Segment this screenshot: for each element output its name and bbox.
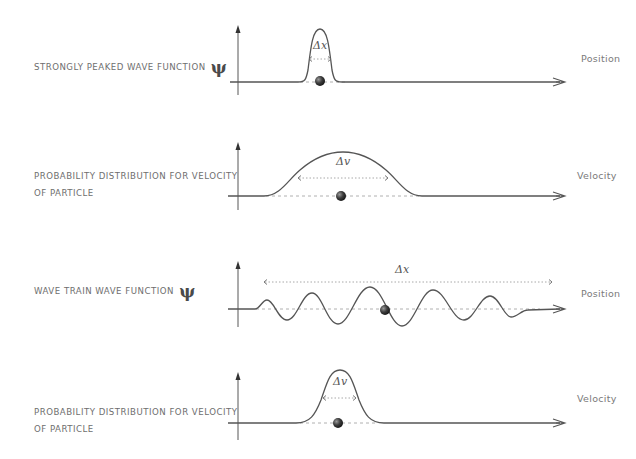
panel-peaked-wave-function: Δx xyxy=(230,25,565,95)
delta-v-label: Δv xyxy=(332,375,348,388)
particle-icon xyxy=(336,191,346,201)
y-axis-arrow-icon xyxy=(236,25,241,33)
velocity-distribution-curve xyxy=(228,152,560,196)
panel-velocity-distribution-narrow: Δv xyxy=(228,370,565,440)
delta-v-label: Δv xyxy=(335,155,351,168)
wave-function-curve xyxy=(230,29,560,82)
particle-icon xyxy=(333,418,343,428)
y-axis-arrow-icon xyxy=(236,372,241,380)
wave-train-curve xyxy=(228,287,560,326)
delta-x-label: Δx xyxy=(394,263,410,276)
velocity-distribution-curve xyxy=(228,370,560,423)
panel-velocity-distribution-wide: Δv xyxy=(228,142,565,210)
diagram-canvas: Δx Δv Δx Δv xyxy=(0,0,636,459)
delta-x-label: Δx xyxy=(312,39,328,52)
particle-icon xyxy=(315,76,325,86)
y-axis-arrow-icon xyxy=(236,142,241,150)
particle-icon xyxy=(380,305,390,315)
panel-wave-train-function: Δx xyxy=(228,261,565,327)
y-axis-arrow-icon xyxy=(236,261,241,269)
